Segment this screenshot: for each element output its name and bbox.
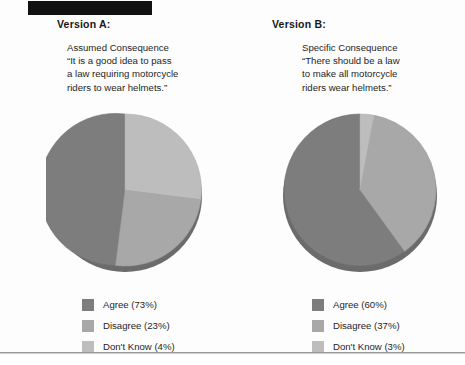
page-edge-margin (0, 356, 465, 365)
legend-item-disagree: Disagree (23%) (82, 315, 272, 336)
legend-label-agree: Agree (73%) (103, 299, 157, 311)
legend-swatch-disagree-icon (82, 320, 94, 332)
legend-item-disagree: Disagree (37%) (312, 315, 465, 336)
pie-chart-a-svg (46, 110, 204, 272)
legend-label-agree: Agree (60%) (333, 299, 387, 311)
legend-swatch-dont-know-icon (82, 341, 94, 353)
legend-item-agree: Agree (73%) (82, 294, 272, 315)
legend-version-b: Agree (60%) Disagree (37%) Don't Know (3… (312, 294, 465, 357)
legend-version-a: Agree (73%) Disagree (23%) Don't Know (4… (82, 294, 272, 357)
legend-label-disagree: Disagree (37%) (333, 320, 400, 332)
pie-chart-version-b (281, 110, 439, 272)
pie-a-slice-disagree (116, 190, 201, 266)
pie-a-slice-agree (46, 113, 125, 265)
legend-swatch-agree-icon (312, 299, 324, 311)
legend-swatch-dont-know-icon (312, 341, 324, 353)
panel-caption-version-b: Specific Consequence “There should be a … (302, 41, 465, 94)
pie-a-slice-dont-know (125, 114, 202, 200)
pie-chart-b-svg (281, 110, 439, 272)
redaction-bar (28, 1, 152, 15)
panel-heading-version-a: Version A: (57, 18, 111, 30)
panel-caption-version-a: Assumed Consequence “It is a good idea t… (67, 41, 232, 94)
panel-heading-version-b: Version B: (272, 18, 326, 30)
pie-chart-version-a (46, 110, 204, 272)
figure-canvas: Version A: Assumed Consequence “It is a … (0, 0, 465, 365)
legend-label-dont-know: Don't Know (3%) (333, 341, 405, 353)
legend-swatch-agree-icon (82, 299, 94, 311)
legend-swatch-disagree-icon (312, 320, 324, 332)
page-bottom-rule-shadow (0, 353, 465, 354)
legend-item-agree: Agree (60%) (312, 294, 465, 315)
legend-label-dont-know: Don't Know (4%) (103, 341, 175, 353)
legend-label-disagree: Disagree (23%) (103, 320, 170, 332)
